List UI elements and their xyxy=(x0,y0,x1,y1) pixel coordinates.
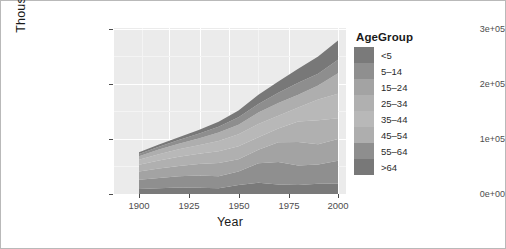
y-tick-mark xyxy=(109,194,113,195)
legend-item[interactable]: 5–14 xyxy=(354,63,464,79)
y-tick-mark xyxy=(109,29,113,30)
x-tick-label: 2000 xyxy=(318,200,358,211)
legend-swatch xyxy=(354,95,374,111)
legend-label: 5–14 xyxy=(381,66,402,77)
legend-swatch xyxy=(354,143,374,159)
legend-items: <55–1415–2425–3435–4445–5455–64>64 xyxy=(354,47,464,175)
legend-label: 25–34 xyxy=(381,98,407,109)
legend: AgeGroup <55–1415–2425–3435–4445–5455–64… xyxy=(354,31,464,175)
legend-label: 45–54 xyxy=(381,130,407,141)
legend-label: <5 xyxy=(381,50,392,61)
x-tick-label: 1900 xyxy=(119,200,159,211)
legend-item[interactable]: 25–34 xyxy=(354,95,464,111)
stacked-area-series xyxy=(114,28,346,194)
y-tick-mark xyxy=(109,84,113,85)
x-axis-title: Year xyxy=(114,215,346,229)
x-tick-mark xyxy=(139,194,140,198)
legend-label: 15–24 xyxy=(381,82,407,93)
plot-panel xyxy=(114,28,346,194)
legend-item[interactable]: >64 xyxy=(354,159,464,175)
legend-swatch xyxy=(354,63,374,79)
legend-item[interactable]: 55–64 xyxy=(354,143,464,159)
legend-label: 35–44 xyxy=(381,114,407,125)
legend-label: 55–64 xyxy=(381,146,407,157)
legend-item[interactable]: 15–24 xyxy=(354,79,464,95)
y-axis-title: Thousands xyxy=(14,0,28,56)
legend-item[interactable]: 35–44 xyxy=(354,111,464,127)
legend-item[interactable]: 45–54 xyxy=(354,127,464,143)
legend-swatch xyxy=(354,79,374,95)
chart-frame: 3e+05 2e+05 1e+05 0e+00 Thousands 1900 1… xyxy=(0,0,506,249)
x-tick-mark xyxy=(239,194,240,198)
legend-title: AgeGroup xyxy=(356,31,464,43)
legend-item[interactable]: <5 xyxy=(354,47,464,63)
x-tick-label: 1975 xyxy=(269,200,309,211)
y-tick-label: 0e+00 xyxy=(402,189,505,199)
x-tick-mark xyxy=(289,194,290,198)
y-tick-mark xyxy=(109,139,113,140)
x-tick-label: 1950 xyxy=(219,200,259,211)
legend-swatch xyxy=(354,127,374,143)
legend-swatch xyxy=(354,111,374,127)
x-tick-mark xyxy=(338,194,339,198)
legend-swatch xyxy=(354,159,374,175)
legend-label: >64 xyxy=(381,162,397,173)
x-tick-mark xyxy=(189,194,190,198)
legend-swatch xyxy=(354,47,374,63)
x-tick-label: 1925 xyxy=(169,200,209,211)
